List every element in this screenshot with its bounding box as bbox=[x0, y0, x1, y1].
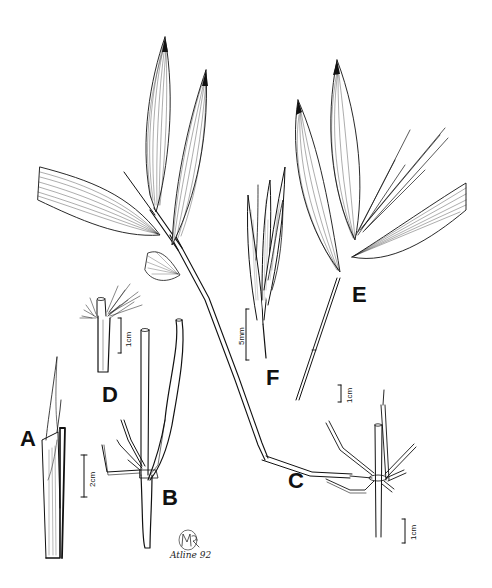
scale-bar-d-1cm bbox=[118, 318, 121, 353]
scale-text-c-1cm: 1cm bbox=[409, 525, 418, 540]
panel-e-drawing bbox=[295, 60, 466, 400]
panel-label-b: B bbox=[162, 487, 178, 509]
panel-label-a: A bbox=[20, 428, 36, 450]
panel-d-drawing bbox=[80, 284, 142, 372]
scale-text-e-1cm: 1cm bbox=[345, 388, 354, 403]
scale-text-2cm: 2cm bbox=[88, 472, 97, 487]
scale-bar-2cm bbox=[81, 455, 87, 497]
artist-monogram bbox=[179, 530, 199, 550]
panel-label-e: E bbox=[352, 284, 367, 306]
panel-c-drawing bbox=[326, 390, 416, 537]
panel-f-drawing bbox=[247, 167, 285, 358]
scale-bar-c-1cm bbox=[402, 519, 405, 543]
scale-text-f-5mm: 5mm bbox=[237, 327, 246, 345]
panel-a-drawing bbox=[42, 357, 65, 558]
panel-label-f: F bbox=[266, 367, 279, 389]
panel-b-drawing bbox=[102, 319, 183, 548]
artist-signature: Atline 92 bbox=[170, 550, 211, 560]
main-branch-drawing bbox=[38, 37, 352, 478]
scale-text-d-1cm: 1cm bbox=[124, 332, 133, 347]
panel-label-d: D bbox=[102, 384, 118, 406]
scale-bar-f-5mm bbox=[246, 309, 249, 360]
scale-bar-e-1cm bbox=[338, 385, 341, 402]
panel-label-c: C bbox=[288, 470, 304, 492]
botanical-plate bbox=[0, 0, 492, 588]
